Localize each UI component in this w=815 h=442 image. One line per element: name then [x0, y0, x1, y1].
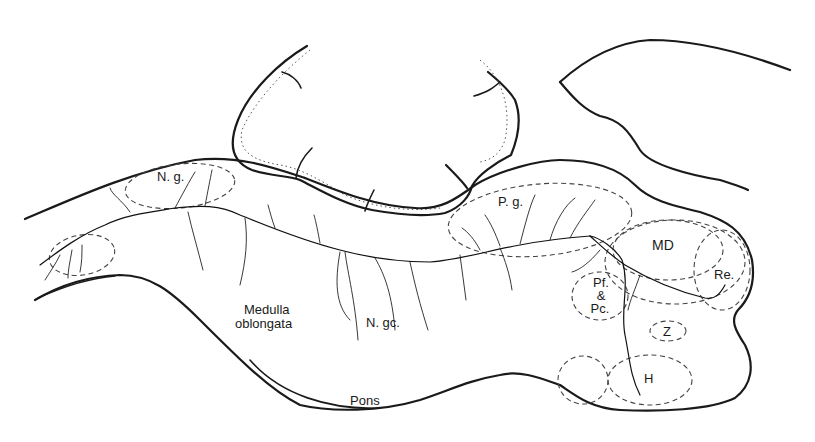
left-thalamic-region [558, 356, 608, 404]
cerebellum-outline [233, 46, 519, 215]
md-region-outer [605, 220, 745, 304]
label-md: MD [652, 238, 674, 252]
label-ngc: N. gc. [366, 316, 400, 330]
label-pg: P. g. [498, 195, 523, 209]
label-nucleus-gracilis: N. g. [157, 170, 184, 184]
ng-region [123, 158, 237, 213]
label-re: Re. [714, 268, 734, 282]
label-zona: Z [663, 325, 671, 339]
label-hypothalamus: H [644, 372, 653, 386]
brainstem-diagram [0, 0, 815, 442]
label-oblongata: oblongata [235, 317, 292, 331]
label-pons: Pons [350, 394, 380, 408]
cortex-outline [560, 40, 790, 190]
label-medulla: Medulla [244, 303, 290, 317]
label-pc: Pc. [585, 302, 615, 316]
